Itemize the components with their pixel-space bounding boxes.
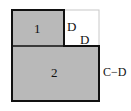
notch-width-label: D [80, 33, 89, 46]
region-1-label: 1 [34, 22, 41, 35]
region-2-side-label: C−D [103, 66, 126, 79]
area-diagram [0, 0, 131, 111]
region-2-label: 2 [51, 66, 58, 79]
notch-height-label: D [67, 20, 76, 33]
